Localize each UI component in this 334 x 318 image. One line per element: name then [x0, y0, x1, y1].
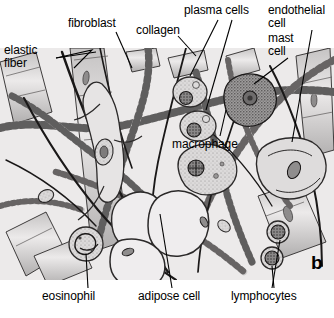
label-collagen: collagen	[136, 24, 180, 37]
label-endothelial-cell-line2: cell	[268, 16, 286, 30]
label-mast-cell-line2: cell	[268, 44, 286, 58]
plasma-cell	[173, 77, 207, 107]
figure-root: elastic fiber fibroblast collagen plasma…	[0, 0, 334, 318]
label-elastic-fiber-line1: elastic	[4, 43, 37, 57]
label-mast-cell-line1: mast	[268, 31, 294, 45]
label-elastic-fiber: elastic fiber	[4, 44, 66, 70]
label-eosinophil: eosinophil	[42, 290, 95, 303]
label-elastic-fiber-line2: fiber	[4, 56, 27, 70]
label-adipose-cell: adipose cell	[138, 290, 200, 303]
label-plasma-cells: plasma cells	[184, 4, 249, 17]
label-mast-cell: mast cell	[268, 32, 334, 58]
endothelial-cell	[257, 138, 327, 199]
label-fibroblast: fibroblast	[68, 17, 116, 30]
lymphocyte	[267, 221, 289, 243]
label-endothelial-cell: endothelial cell	[268, 4, 334, 30]
macrophage-cell	[178, 144, 237, 195]
label-macrophage: macrophage	[172, 138, 238, 151]
lymphocyte	[261, 247, 283, 269]
panel-letter: b	[311, 252, 323, 274]
mast-cell	[224, 74, 276, 126]
adipose-cell	[148, 191, 209, 256]
label-lymphocytes: lymphocytes	[231, 290, 297, 303]
label-endothelial-cell-line1: endothelial	[268, 3, 325, 17]
